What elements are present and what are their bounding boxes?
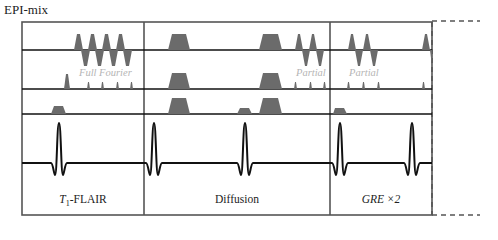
rf-waveform (22, 123, 432, 175)
continuation-dashes (432, 21, 480, 215)
module-label-t1-flair: T1-FLAIR (22, 193, 144, 208)
annotation-full-fourier: Full Fourier (78, 67, 133, 78)
label-suffix: -FLAIR (70, 193, 107, 205)
annotation-partial-gre: Partial (348, 67, 379, 78)
annotation-partial-diffusion: Partial (295, 67, 326, 78)
module-label-diffusion: Diffusion (144, 193, 330, 205)
module-label-gre: GRE ×2 (330, 193, 432, 205)
